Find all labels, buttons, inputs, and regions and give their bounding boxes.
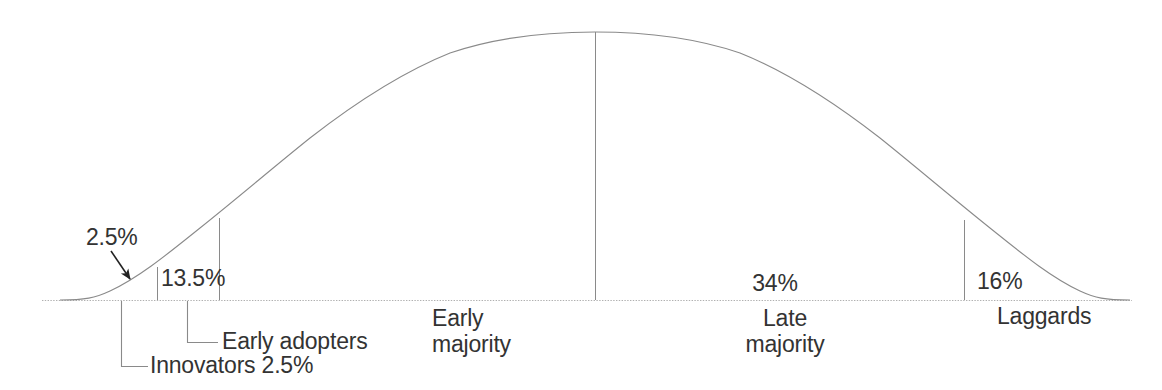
category-label-laggards: Laggards	[997, 305, 1091, 328]
leader-line-innovators	[122, 301, 149, 367]
leader-line-early-adopters	[188, 301, 219, 343]
category-label-early-majority: Early majority	[432, 305, 511, 357]
category-label-late-majority-line1: Late	[746, 305, 825, 331]
category-label-late-majority-line2: majority	[746, 331, 825, 357]
category-label-late-majority: Late majority	[746, 305, 825, 357]
percent-label-laggards: 16%	[977, 270, 1022, 293]
callout-arrow-innovators	[111, 251, 130, 279]
category-label-early-majority-line2: majority	[432, 331, 511, 357]
category-label-early-majority-line1: Early	[432, 305, 511, 331]
percent-label-innovators: 2.5%	[86, 226, 138, 249]
category-label-innovators: Innovators 2.5%	[150, 354, 313, 377]
category-label-early-adopters: Early adopters	[222, 330, 368, 353]
bell-curve-graphic	[0, 0, 1162, 390]
percent-label-late-majority: 34%	[752, 272, 797, 295]
adoption-curve-figure: 2.5% 13.5% 34% 16% Early adopters Innova…	[0, 0, 1162, 390]
percent-label-early-adopters: 13.5%	[161, 267, 225, 290]
